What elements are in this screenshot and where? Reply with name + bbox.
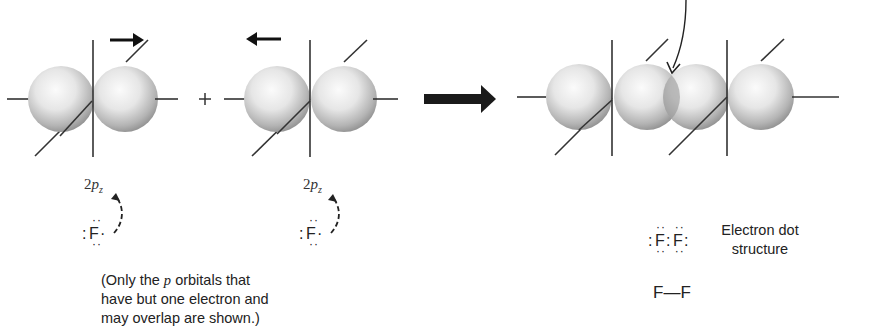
electron-dot-structure: ·· ·· : F : F : ·· ·· [648,232,708,262]
note-text: (Only the [101,272,164,288]
bond-line-structure: F—F [653,283,691,303]
lewis-left-dots: : [299,225,303,243]
orbital-letter: p [311,176,319,192]
orbital-subscript: z [99,184,103,195]
orbital-number: 2 [84,176,92,192]
label-line-2: structure [714,240,806,259]
lewis-bottom-dots: ·· [92,237,102,251]
arrow-right-icon [110,33,144,47]
label-line-1: Electron dot [714,221,806,240]
arrow-left-icon [246,32,281,46]
left-dashed-curve-arrow-icon [111,193,122,233]
right-orbital-label: 2pz [303,176,322,195]
left-p-orbital [7,40,178,157]
lewis-left-dots: : [82,225,86,243]
electron-dot-label: Electron dot structure [714,221,806,259]
note-line-1: (Only the p orbitals that [101,271,269,290]
note-line-3: may overlap are shown.) [101,309,269,328]
overlap-pointer-arrow-icon [667,0,686,73]
orbital-letter: p [92,176,100,192]
orbital-number: 2 [303,176,311,192]
note-text: orbitals that [171,272,250,288]
orbital-note: (Only the p orbitals that have but one e… [101,271,269,328]
right-p-orbital [224,40,398,157]
note-line-2: have but one electron and [101,290,269,309]
right-dashed-curve-arrow-icon [328,194,339,233]
reaction-arrow-icon [424,85,496,113]
left-orbital-label: 2pz [84,176,103,195]
lewis-bottom-dots: ·· [309,237,319,251]
plus-icon [199,93,211,105]
orbital-subscript: z [318,184,322,195]
